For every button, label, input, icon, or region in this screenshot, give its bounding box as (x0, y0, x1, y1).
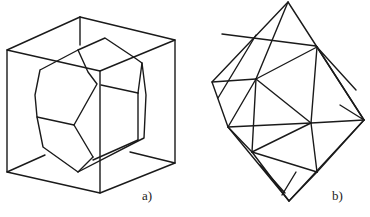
panel-a-cube (7, 17, 175, 193)
figure-drawing (0, 0, 370, 217)
figure: a) b) (0, 0, 370, 217)
panel-a-label: a) (142, 188, 152, 204)
panel-b-label: b) (332, 188, 343, 204)
panel-b-octahedron (212, 2, 364, 201)
